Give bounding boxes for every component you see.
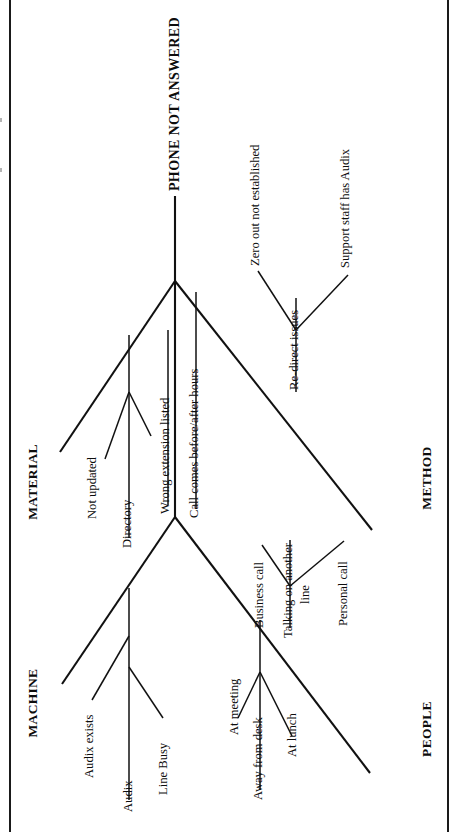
- category-label-method: METHOD: [419, 446, 434, 509]
- cause-label-zero-out: Zero out not established: [248, 144, 262, 266]
- diagram-canvas: PHONE NOT ANSWERED MACHINE MATERIAL PEOP…: [0, 0, 464, 832]
- category-label-material: MATERIAL: [25, 444, 40, 520]
- cause-label-directory: Directory: [120, 499, 134, 548]
- cause-label-business-call: Business call: [252, 561, 266, 628]
- cause-label-wrong-extension: Wrong extension listed: [158, 397, 172, 514]
- cause-label-redirect: Re-direct issues: [287, 310, 301, 390]
- cause-label-audix-exists: Audix exists: [82, 715, 96, 778]
- cause-label-audix: Audix: [121, 780, 135, 812]
- fishbone-diagram: PHONE NOT ANSWERED MACHINE MATERIAL PEOP…: [0, 0, 464, 832]
- cause-label-not-updated: Not updated: [85, 456, 99, 519]
- cause-label-talking-on-another: Talking on another: [281, 542, 295, 638]
- cause-label-at-lunch: At lunch: [285, 713, 299, 757]
- cause-label-call-comes: Call comes before/after hours: [187, 369, 201, 518]
- cause-label-away-from-desk: Away from desk: [251, 717, 265, 800]
- cause-label-personal-call: Personal call: [336, 561, 350, 626]
- cause-label-support-staff: Support staff has Audix: [338, 148, 352, 268]
- cause-label-talking-line-wrap: line: [298, 585, 312, 604]
- cause-label-line-busy: Line Busy: [156, 742, 170, 795]
- category-label-people: PEOPLE: [419, 701, 434, 757]
- cause-label-at-meeting: At meeting: [227, 678, 241, 735]
- category-label-machine: MACHINE: [25, 669, 40, 738]
- effect-label: PHONE NOT ANSWERED: [167, 17, 182, 191]
